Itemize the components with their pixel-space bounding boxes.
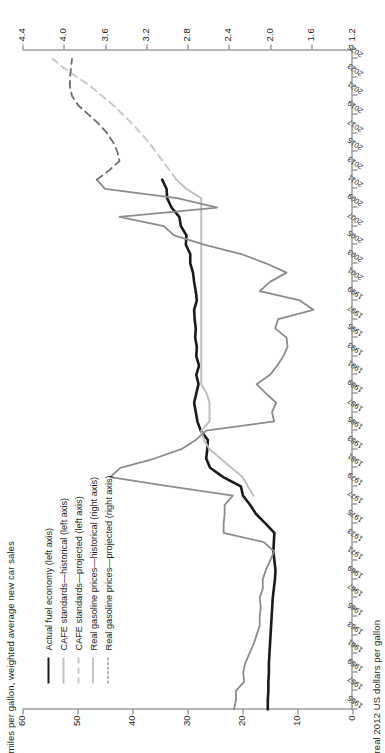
left-axis-tick: 50 [70,715,81,745]
right-axis-tick: 3.6 [98,28,109,41]
legend-swatch-icon [77,657,79,683]
left-axis-tickmark [132,709,133,714]
x-axis-tickmark [352,448,357,449]
x-axis-tickmark [352,522,357,523]
legend-label: CAFE standards—historical (left axis) [58,497,68,650]
legend-item-2[interactable]: CAFE standards—projected (left axis) [70,475,85,683]
x-axis-tickmark [352,113,357,114]
left-axis-tick: 30 [180,715,191,745]
x-axis-tickmark [352,299,357,300]
left-axis-title: miles per gallon, weighted average new c… [4,541,15,753]
x-axis-tickmark [352,355,357,356]
x-axis-tickmark [352,243,357,244]
legend-label: Real gasoline prices—historical (right a… [88,476,98,650]
x-axis-tickmark [352,169,357,170]
legend-swatch-icon [107,657,108,683]
left-axis-tick: 0 [345,715,356,745]
legend-swatch-icon [47,657,49,683]
right-axis-tickmark [270,44,271,49]
series-line-1 [176,179,253,495]
legend-label: Actual fuel economy (left axis) [43,527,53,650]
right-axis-tick: 4.0 [56,28,67,41]
x-axis-tickmark [352,262,357,263]
x-axis-tickmark [352,578,357,579]
x-axis-tickmark [352,373,357,374]
right-axis-tick: 2.4 [221,28,232,41]
legend-item-1[interactable]: CAFE standards—historical (left axis) [55,475,70,683]
x-axis-tickmark [352,634,357,635]
left-axis-tickmark [352,709,353,714]
right-axis-tickmark [311,44,312,49]
x-axis-tickmark [352,559,357,560]
x-axis-tickmark [352,94,357,95]
x-axis-tickmark [352,504,357,505]
x-axis-tickmark [352,429,357,430]
right-axis-tick: 1.2 [345,28,356,41]
left-axis-tick: 40 [125,715,136,745]
right-axis-tickmark [22,44,23,49]
x-axis-tickmark [352,206,357,207]
legend-item-4[interactable]: Real gasoline prices—projected (right ax… [100,475,115,683]
legend-label: Real gasoline prices—projected (right ax… [103,475,113,650]
chart-screenshot: miles per gallon, weighted average new c… [0,0,385,753]
right-axis-tickmark [146,44,147,49]
left-axis-tickmark [297,709,298,714]
legend-swatch-icon [62,657,64,683]
x-axis-tickmark [352,132,357,133]
x-axis-tickmark [352,225,357,226]
right-axis-tickmark [63,44,64,49]
x-axis-tickmark [352,336,357,337]
x-axis-tickmark [352,485,357,486]
x-axis-tickmark [352,392,357,393]
right-axis-tick: 2.0 [263,28,274,41]
legend-swatch-icon [92,657,93,683]
right-axis-tickmark [105,44,106,49]
left-axis-tickmark [22,709,23,714]
x-axis-tickmark [352,280,357,281]
legend-item-0[interactable]: Actual fuel economy (left axis) [40,475,55,683]
right-axis-title: real 2012 US dollars per gallon [370,619,381,753]
left-axis-tickmark [242,709,243,714]
left-axis-tickmark [77,709,78,714]
x-axis-tickmark [352,187,357,188]
right-axis-tick: 4.4 [15,28,26,41]
left-axis-tick: 20 [235,715,246,745]
left-axis-tick: 60 [15,715,26,745]
x-axis-tickmark [352,689,357,690]
legend-label: CAFE standards—projected (left axis) [73,496,83,650]
x-axis-tickmark [352,411,357,412]
left-axis-tick: 10 [290,715,301,745]
x-axis-tickmark [352,652,357,653]
series-line-3 [96,179,313,709]
right-axis-tick: 3.2 [139,28,150,41]
series-line-2 [52,58,176,179]
x-axis-tickmark [352,466,357,467]
left-axis-tickmark [187,709,188,714]
right-axis-tick: 2.8 [180,28,191,41]
x-axis-tickmark [352,708,357,709]
legend: Actual fuel economy (left axis)CAFE stan… [40,475,115,683]
x-axis-tickmark [352,150,357,151]
x-axis-tickmark [352,318,357,319]
right-axis-tick: 1.6 [304,28,315,41]
legend-item-3[interactable]: Real gasoline prices—historical (right a… [85,475,100,683]
figure: miles per gallon, weighted average new c… [0,0,385,753]
x-axis-tickmark [352,671,357,672]
right-axis-tickmark [187,44,188,49]
x-axis-tickmark [352,596,357,597]
x-axis-tickmark [352,615,357,616]
right-axis-tickmark [228,44,229,49]
x-axis-tickmark [352,57,357,58]
x-axis-tickmark [352,76,357,77]
x-axis-tickmark [352,541,357,542]
